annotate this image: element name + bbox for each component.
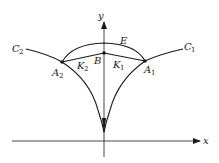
label-a2: A 2 <box>51 67 63 80</box>
label-k2-sub: 2 <box>84 65 88 73</box>
label-a1: A 1 <box>143 64 155 77</box>
label-k1-sub: 1 <box>120 64 124 72</box>
label-a2-main: A <box>51 67 59 78</box>
diagram-canvas: y x C 2 C 1 E A 2 A 1 B K 2 K 1 <box>0 0 219 163</box>
segment-k1 <box>104 53 145 61</box>
point-a1 <box>143 59 147 63</box>
label-c2: C 2 <box>12 43 23 56</box>
label-e: E <box>119 35 128 46</box>
label-a1-main: A <box>143 64 151 75</box>
label-c1: C 1 <box>184 41 195 54</box>
label-c1-sub: 1 <box>191 46 195 54</box>
point-a2 <box>60 60 64 64</box>
label-a2-sub: 2 <box>59 72 63 80</box>
y-axis-label: y <box>97 10 104 21</box>
label-b: B <box>93 55 101 66</box>
point-b <box>102 51 106 55</box>
label-k1: K 1 <box>112 59 124 72</box>
label-a1-sub: 1 <box>151 69 155 77</box>
label-k2: K 2 <box>76 60 88 73</box>
label-c2-sub: 2 <box>19 48 23 56</box>
x-axis-label: x <box>203 135 209 146</box>
